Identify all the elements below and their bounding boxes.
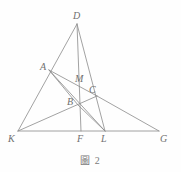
- figure-caption: 圖 2: [0, 152, 181, 167]
- segment-B-L: [78, 105, 105, 131]
- vertex-label-l: L: [101, 134, 107, 144]
- vertex-label-f: F: [77, 134, 83, 144]
- geometry-figure: DAMCBKFLG 圖 2: [0, 0, 181, 172]
- vertex-label-m: M: [75, 74, 83, 84]
- caption-label: 圖: [80, 155, 91, 166]
- vertex-label-d: D: [73, 11, 80, 21]
- segment-D-K: [18, 24, 77, 131]
- segment-C-G: [97, 96, 159, 131]
- caption-number: 2: [95, 155, 101, 166]
- segment-K-C: [18, 96, 97, 131]
- segment-A-B: [49, 70, 78, 105]
- vertex-label-g: G: [160, 134, 167, 144]
- vertex-label-b: B: [67, 97, 73, 107]
- vertex-label-c: C: [89, 85, 96, 95]
- segments-group: [18, 24, 159, 131]
- vertex-label-k: K: [8, 134, 15, 144]
- vertex-label-a: A: [40, 62, 46, 72]
